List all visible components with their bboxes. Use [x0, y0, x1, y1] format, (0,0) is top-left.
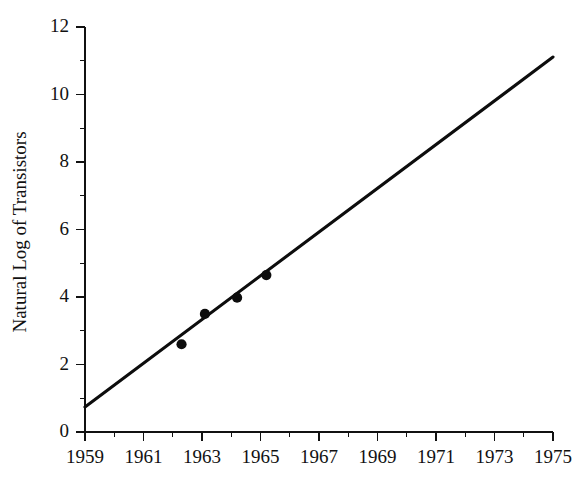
data-point-marker [200, 309, 210, 319]
x-tick-label: 1975 [534, 446, 572, 467]
y-tick-label: 4 [60, 285, 70, 306]
y-tick-label: 6 [60, 218, 70, 239]
chart-background [0, 0, 583, 499]
x-tick-label: 1973 [476, 446, 514, 467]
x-axis-tick-labels: 195919611963196519671969197119731975 [66, 446, 572, 467]
x-tick-label: 1967 [300, 446, 338, 467]
y-axis-title: Natural Log of Transistors [9, 131, 30, 332]
chart-canvas: 024681012 Natural Log of Transistors 195… [0, 0, 583, 499]
x-tick-label: 1961 [125, 446, 163, 467]
data-point-marker [176, 339, 186, 349]
x-tick-label: 1969 [359, 446, 397, 467]
y-tick-label: 12 [50, 15, 69, 36]
x-tick-label: 1971 [417, 446, 455, 467]
y-tick-label: 8 [60, 150, 70, 171]
x-tick-label: 1963 [183, 446, 221, 467]
chart-figure: 024681012 Natural Log of Transistors 195… [0, 0, 583, 499]
x-tick-label: 1965 [242, 446, 280, 467]
x-tick-label: 1959 [66, 446, 104, 467]
data-point-marker [232, 293, 242, 303]
y-tick-label: 10 [50, 83, 69, 104]
y-tick-label: 0 [60, 420, 70, 441]
data-point-marker [261, 270, 271, 280]
y-tick-label: 2 [60, 353, 70, 374]
